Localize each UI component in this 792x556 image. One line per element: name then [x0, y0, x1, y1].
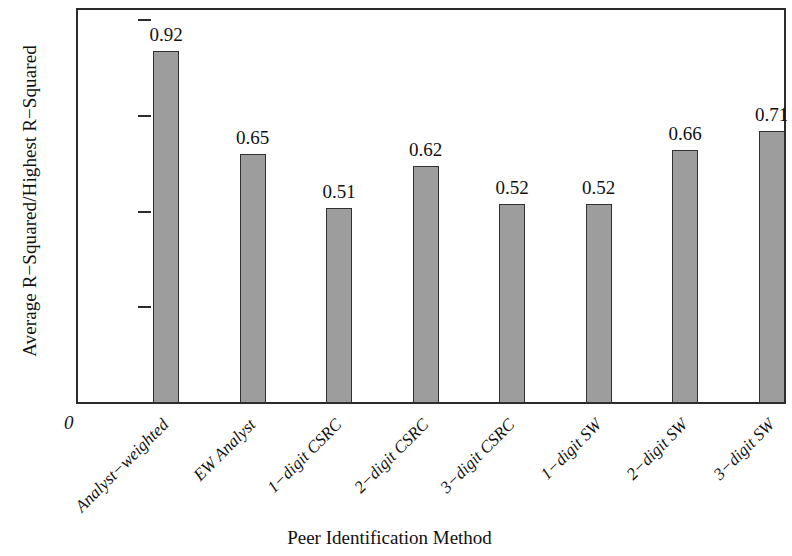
y-axis-tick-mark	[138, 19, 151, 21]
y-axis-title: Average R−Squared/Highest R−Squared	[19, 0, 41, 411]
y-axis-tick-mark	[138, 402, 151, 404]
bar	[413, 166, 439, 403]
bar-value-label: 0.62	[386, 139, 466, 161]
origin-zero-label: 0	[64, 412, 74, 434]
plot-area: 00.250.500.751.00 0.920.650.510.620.520.…	[76, 8, 786, 404]
bar-value-label: 0.52	[472, 177, 552, 199]
bar	[759, 131, 785, 403]
y-axis-tick-mark	[138, 306, 151, 308]
bar-value-label: 0.65	[213, 127, 293, 149]
bar	[326, 208, 352, 403]
bar	[153, 51, 179, 403]
bar-value-label: 0.52	[559, 177, 639, 199]
x-axis-title: Peer Identification Method	[0, 527, 779, 549]
bar	[499, 204, 525, 403]
bar-value-label: 0.51	[299, 181, 379, 203]
bar	[240, 154, 266, 403]
bar	[586, 204, 612, 403]
bar	[672, 150, 698, 403]
bar-value-label: 0.66	[645, 123, 725, 145]
y-axis-tick-mark	[138, 115, 151, 117]
bar-value-label: 0.71	[732, 104, 792, 126]
y-axis-tick-mark	[138, 211, 151, 213]
bar-value-label: 0.92	[126, 24, 206, 46]
